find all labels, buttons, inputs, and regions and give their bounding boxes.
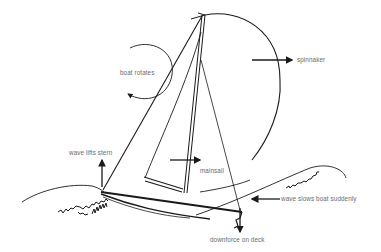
stern-wave	[22, 185, 105, 202]
masthead	[191, 13, 205, 19]
label-spinnaker: spinnaker	[297, 57, 325, 63]
hull-bottom	[101, 194, 210, 219]
bow-wave-inner	[200, 180, 250, 192]
boom	[144, 177, 183, 192]
spinnaker-sail	[205, 14, 280, 160]
keel-bow	[234, 212, 242, 228]
label-mainsail: mainsail	[200, 168, 224, 174]
label-boat-rotates: boat rotates	[120, 70, 154, 76]
label-wave-slows-boat: wave slows boat suddenly	[281, 196, 357, 202]
bow-spray	[286, 172, 319, 188]
sailboat-diagram	[0, 0, 381, 252]
label-wave-lifts-stern: wave lifts stern	[69, 150, 112, 156]
label-downforce-on-deck: downforce on deck	[210, 237, 265, 243]
